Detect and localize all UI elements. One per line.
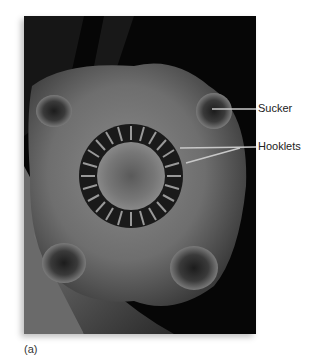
sucker-label: Sucker	[258, 103, 292, 114]
hooklets-label: Hooklets	[258, 141, 301, 152]
sem-photo	[24, 16, 256, 334]
scolex-image	[24, 16, 256, 334]
figure-caption: (a)	[24, 343, 37, 355]
